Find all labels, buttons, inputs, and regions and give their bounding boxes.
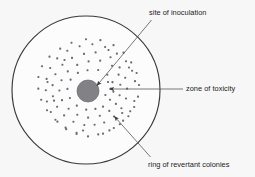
colony-dot (37, 76, 39, 78)
colony-dot (129, 110, 131, 112)
colony-dot (76, 132, 78, 134)
colony-dot (56, 57, 58, 59)
colony-dot (130, 61, 132, 63)
colony-dot (83, 124, 85, 126)
colony-dot (119, 94, 121, 96)
colony-dot (66, 88, 68, 90)
colony-dot (67, 70, 69, 72)
colony-dot (102, 133, 104, 135)
colony-dot (70, 42, 72, 44)
colony-dot (72, 121, 74, 123)
colony-dot (61, 99, 63, 101)
colony-dot (121, 112, 123, 114)
colony-dot (82, 129, 84, 131)
colony-dot (115, 103, 117, 105)
colony-dot (46, 100, 48, 102)
label-site-of-inoculation: site of inoculation (149, 8, 207, 17)
inoculation-disc (77, 80, 99, 102)
colony-dot (63, 59, 65, 61)
colony-dot (46, 81, 48, 83)
colony-dot (133, 100, 135, 102)
colony-dot (76, 114, 78, 116)
colony-dot (91, 43, 93, 45)
colony-dot (76, 64, 78, 66)
colony-dot (79, 45, 81, 47)
colony-dot (37, 88, 39, 90)
colony-dot (61, 64, 63, 66)
colony-dot (48, 56, 50, 58)
colony-dot (69, 97, 71, 99)
colony-dot (134, 80, 136, 82)
colony-dot (136, 72, 138, 74)
colony-dot (94, 108, 96, 110)
colony-dot (109, 99, 111, 101)
colony-dot (119, 66, 121, 68)
colony-dot (50, 111, 52, 113)
colony-dot (83, 53, 85, 55)
colony-dot (40, 99, 42, 101)
colony-dot (97, 69, 99, 71)
colony-dot (88, 60, 90, 62)
colony-dot (118, 74, 120, 76)
colony-dot (137, 96, 139, 98)
colony-dot (111, 81, 113, 83)
colony-dot (138, 84, 140, 86)
colony-dot (58, 89, 60, 91)
colony-dot (108, 110, 110, 112)
colony-dot (131, 70, 133, 72)
colony-dot (128, 66, 130, 68)
colony-dot (109, 56, 111, 58)
figure-canvas: site of inoculation zone of toxicity rin… (0, 0, 255, 177)
colony-dot (52, 95, 54, 97)
colony-dot (77, 72, 79, 74)
colony-dot (112, 44, 114, 46)
colony-dot (103, 121, 105, 123)
colony-dot (46, 109, 48, 111)
colony-dot (54, 119, 56, 121)
colony-dot (127, 115, 129, 117)
colony-dot (59, 48, 61, 50)
colony-dot (108, 129, 110, 131)
colony-dot (85, 38, 87, 40)
colony-dot (116, 53, 118, 55)
colony-dot (53, 100, 55, 102)
colony-dot (56, 121, 58, 123)
colony-dot (119, 84, 121, 86)
colony-dot (41, 65, 43, 67)
colony-dot (113, 127, 115, 129)
colony-dot (63, 114, 65, 116)
colony-dot (56, 106, 58, 108)
colony-dot (94, 124, 96, 126)
colony-dot (133, 106, 135, 108)
colony-dot (107, 49, 109, 51)
colony-dot (104, 46, 106, 48)
colony-dot (68, 108, 70, 110)
colony-dot (46, 78, 48, 80)
colony-dot (49, 67, 51, 69)
colony-dot (124, 77, 126, 79)
colony-dot (107, 81, 109, 83)
colony-dot (87, 117, 89, 119)
colony-dot (99, 60, 101, 62)
colony-dot (120, 107, 122, 109)
colony-dot (125, 60, 127, 62)
colony-dot (112, 91, 114, 93)
colony-dot (86, 69, 88, 71)
colony-dot (104, 94, 106, 96)
colony-dot (85, 109, 87, 111)
colony-dot (45, 89, 47, 91)
colony-dot (66, 50, 68, 52)
colony-dot (122, 120, 124, 122)
colony-dot (125, 97, 127, 99)
colony-dot (54, 73, 56, 75)
colony-dot (99, 115, 101, 117)
label-ring-of-revertant-colonies: ring of revertant colonies (148, 160, 229, 169)
colony-dot (76, 105, 78, 107)
label-zone-of-toxicity: zone of toxicity (186, 84, 235, 93)
colony-dot (102, 106, 104, 108)
colony-dot (99, 39, 101, 41)
colony-dot (71, 57, 73, 59)
colony-dot (52, 84, 54, 86)
colony-dot (60, 79, 62, 81)
colony-dot (87, 135, 89, 137)
